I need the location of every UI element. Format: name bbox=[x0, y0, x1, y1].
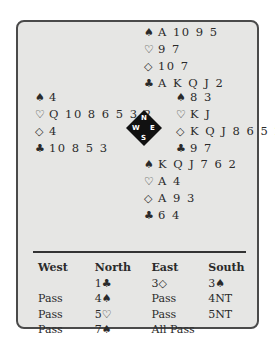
heart-icon: ♡ bbox=[144, 42, 158, 58]
diamond-icon: ◇ bbox=[176, 124, 190, 140]
bid: 1♣ bbox=[95, 276, 152, 292]
west-clubs: 10 8 5 3 bbox=[49, 141, 109, 155]
east-diamonds: K Q J 8 6 5 2 bbox=[190, 124, 275, 138]
compass-east: E bbox=[150, 124, 155, 132]
bid bbox=[208, 322, 248, 338]
south-spades: K Q J 7 6 2 bbox=[158, 157, 237, 171]
south-diamonds: A 9 3 bbox=[158, 191, 196, 205]
spade-icon: ♠ bbox=[144, 157, 158, 173]
west-diamonds: 4 bbox=[49, 124, 58, 138]
auction-header: West North East South bbox=[38, 260, 248, 276]
heart-icon: ♡ bbox=[176, 107, 190, 123]
club-icon: ♣ bbox=[144, 208, 158, 224]
bid: 5♡ bbox=[95, 307, 152, 323]
north-hand: ♠A 10 9 5 ♡9 7 ◇10 7 ♣A K Q J 2 bbox=[144, 24, 224, 92]
north-spades: A 10 9 5 bbox=[158, 25, 219, 39]
east-clubs: 9 7 bbox=[190, 141, 213, 155]
bid: All Pass bbox=[151, 322, 208, 338]
bid: Pass bbox=[151, 307, 208, 323]
spade-icon: ♠ bbox=[144, 25, 158, 41]
spade-icon: ♠ bbox=[176, 90, 190, 106]
bid: 7♠ bbox=[95, 322, 152, 338]
heart-icon: ♡ bbox=[144, 174, 158, 190]
header-east: East bbox=[151, 260, 208, 276]
bid: 3♠ bbox=[208, 276, 248, 292]
auction-row: Pass 4♠ Pass 4NT bbox=[38, 291, 248, 307]
diamond-icon: ◇ bbox=[35, 124, 49, 140]
south-clubs: 6 4 bbox=[158, 208, 181, 222]
auction-table: West North East South 1♣ 3◇ 3♠ Pass 4♠ P… bbox=[38, 260, 248, 338]
bid: Pass bbox=[38, 307, 95, 323]
heart-icon: ♡ bbox=[35, 107, 49, 123]
west-spades: 4 bbox=[49, 90, 58, 104]
bid: Pass bbox=[151, 291, 208, 307]
diamond-icon: ◇ bbox=[144, 191, 158, 207]
south-hand: ♠K Q J 7 6 2 ♡A 4 ◇A 9 3 ♣6 4 bbox=[144, 156, 237, 224]
bridge-deal-panel: ♠A 10 9 5 ♡9 7 ◇10 7 ♣A K Q J 2 ♠4 ♡Q 10… bbox=[16, 20, 259, 329]
auction-row: 1♣ 3◇ 3♠ bbox=[38, 276, 248, 292]
auction-row: Pass 5♡ Pass 5NT bbox=[38, 307, 248, 323]
spade-icon: ♠ bbox=[35, 90, 49, 106]
south-hearts: A 4 bbox=[158, 174, 182, 188]
divider bbox=[33, 251, 246, 253]
header-north: North bbox=[95, 260, 152, 276]
compass-south: S bbox=[141, 134, 146, 142]
club-icon: ♣ bbox=[35, 141, 49, 157]
auction-row: Pass 7♠ All Pass bbox=[38, 322, 248, 338]
north-clubs: A K Q J 2 bbox=[158, 76, 224, 90]
north-diamonds: 10 7 bbox=[158, 59, 190, 73]
east-hand: ♠8 3 ♡K J ◇K Q J 8 6 5 2 ♣9 7 bbox=[176, 89, 275, 157]
compass-icon: N W E S bbox=[126, 110, 162, 146]
bid: 5NT bbox=[208, 307, 248, 323]
bid bbox=[38, 276, 95, 292]
header-west: West bbox=[38, 260, 95, 276]
bid: Pass bbox=[38, 291, 95, 307]
bid: 3◇ bbox=[151, 276, 208, 292]
header-south: South bbox=[208, 260, 248, 276]
compass-west: W bbox=[132, 124, 140, 132]
east-spades: 8 3 bbox=[190, 90, 213, 104]
compass-north: N bbox=[141, 114, 147, 122]
bid: Pass bbox=[38, 322, 95, 338]
club-icon: ♣ bbox=[176, 141, 190, 157]
east-hearts: K J bbox=[190, 107, 211, 121]
bid: 4♠ bbox=[95, 291, 152, 307]
bid: 4NT bbox=[208, 291, 248, 307]
diamond-icon: ◇ bbox=[144, 59, 158, 75]
north-hearts: 9 7 bbox=[158, 42, 181, 56]
